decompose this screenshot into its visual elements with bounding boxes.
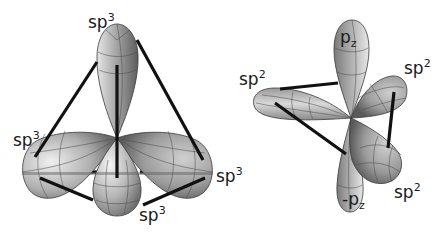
- label-sp2-lower-right: sp2: [394, 181, 421, 202]
- sp3-figure: sp3 sp3 sp3 sp3: [13, 11, 243, 225]
- sp2-figure: pz sp2 sp2 sp2 -pz: [239, 20, 431, 212]
- hybrid-orbitals-diagram: sp3 sp3 sp3 sp3: [0, 0, 444, 235]
- label-sp2-upper-right: sp2: [404, 57, 431, 78]
- label-sp3-bottom: sp3: [139, 204, 166, 225]
- label-sp2-left: sp2: [239, 68, 266, 89]
- label-sp3-right: sp3: [216, 165, 243, 186]
- triangle-edge-top: [280, 83, 338, 89]
- sp2-lobe-left: [254, 88, 351, 120]
